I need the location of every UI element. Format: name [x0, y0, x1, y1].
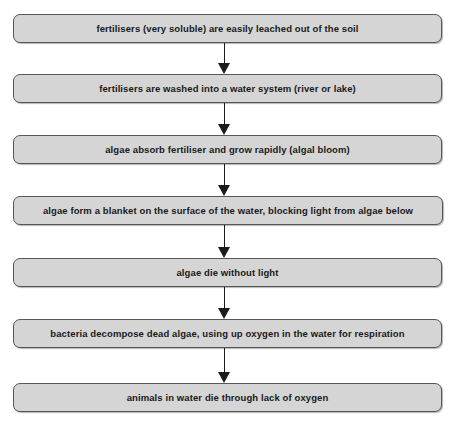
flow-connector-arrow-1 [218, 43, 231, 74]
flow-step-box-7: animals in water die through lack of oxy… [13, 383, 442, 412]
flow-step-label-3: algae absorb fertiliser and grow rapidly… [105, 145, 350, 155]
flow-step-label-2: fertilisers are washed into a water syst… [99, 84, 356, 94]
arrow-stem-icon [224, 225, 225, 247]
arrow-head-icon [218, 185, 230, 196]
flow-step-box-1: fertilisers (very soluble) are easily le… [13, 14, 442, 43]
flow-connector-arrow-5 [218, 287, 231, 319]
flow-step-box-2: fertilisers are washed into a water syst… [13, 74, 442, 103]
flow-connector-arrow-6 [218, 348, 231, 383]
arrow-head-icon [218, 372, 230, 383]
flow-step-label-5: algae die without light [176, 268, 278, 278]
arrow-head-icon [218, 63, 230, 74]
flow-step-box-3: algae absorb fertiliser and grow rapidly… [13, 135, 442, 164]
arrow-stem-icon [224, 103, 225, 124]
arrow-stem-icon [224, 164, 225, 185]
flowchart-diagram: fertilisers (very soluble) are easily le… [0, 0, 458, 427]
arrow-head-icon [218, 247, 230, 258]
flow-step-box-6: bacteria decompose dead algae, using up … [13, 319, 442, 348]
arrow-stem-icon [224, 43, 225, 63]
flow-step-label-4: algae form a blanket on the surface of t… [43, 206, 413, 216]
arrow-stem-icon [224, 348, 225, 372]
arrow-stem-icon [224, 287, 225, 308]
flow-step-box-5: algae die without light [13, 258, 442, 287]
flow-step-label-1: fertilisers (very soluble) are easily le… [96, 24, 358, 34]
flow-step-label-7: animals in water die through lack of oxy… [127, 393, 329, 403]
flow-step-box-4: algae form a blanket on the surface of t… [13, 196, 443, 225]
arrow-head-icon [218, 124, 230, 135]
flow-connector-arrow-3 [218, 164, 231, 196]
flow-connector-arrow-2 [218, 103, 231, 135]
flow-step-label-6: bacteria decompose dead algae, using up … [50, 329, 404, 339]
flow-connector-arrow-4 [218, 225, 231, 258]
arrow-head-icon [218, 308, 230, 319]
